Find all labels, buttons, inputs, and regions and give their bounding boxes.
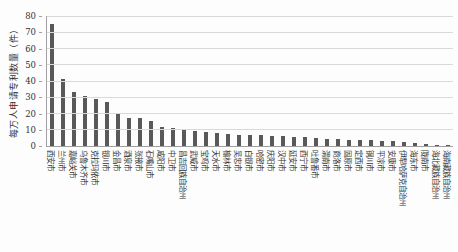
gridline-50 [47,64,453,65]
bar [72,92,76,146]
x-axis-label: 乌鲁木齐市 [79,150,87,185]
bar [314,138,318,146]
x-axis-label: 吴忠市 [233,150,241,171]
x-axis-label: 海北藏族自治州 [431,150,439,199]
y-tick-label-30: 30 [6,93,36,101]
x-axis-label: 陇南市 [420,150,428,171]
x-axis-label: 汉中市 [277,150,285,171]
bar [303,137,307,146]
x-axis-label: 白银市 [244,150,252,171]
bar [259,135,263,146]
y-tick-label-70: 70 [6,28,36,36]
x-axis-label: 酒泉市 [123,150,131,171]
x-axis-label: 定西市 [354,150,362,171]
gridline-80 [47,16,453,17]
bar [270,136,274,146]
bar [413,143,417,146]
x-axis-label: 安康市 [387,150,395,171]
x-axis-label: 海南藏族自治州 [442,150,450,199]
x-axis-label: 西宁市 [299,150,307,171]
bar [424,144,428,146]
x-axis-label: 铜川市 [365,150,373,171]
x-axis-label: 渭南市 [321,150,329,171]
bar [215,133,219,146]
bar [358,140,362,146]
x-axis-label: 武威市 [189,150,197,171]
y-tick-label-10: 10 [6,126,36,134]
x-axis-label: 西安市 [46,150,54,171]
y-tick-mark [39,49,42,50]
y-tick-label-40: 40 [6,77,36,85]
x-axis-label: 宝鸡市 [200,150,208,171]
x-axis-label: 石嘴山市 [145,150,153,178]
x-axis-label: 海东市 [409,150,417,171]
bar [105,102,109,146]
y-tick-label-60: 60 [6,45,36,53]
y-tick-mark [39,16,42,17]
x-axis-label: 哈密市 [255,150,263,171]
bar [193,131,197,146]
bar [248,135,252,146]
y-tick-mark [39,97,42,98]
bar [182,129,186,146]
bar [446,145,450,146]
gridline-70 [47,32,453,33]
y-tick-label-20: 20 [6,110,36,118]
bar [325,139,329,146]
bar [402,142,406,146]
y-tick-label-80: 80 [6,12,36,20]
bar [281,136,285,146]
y-tick-label-50: 50 [6,61,36,69]
y-tick-mark [39,65,42,66]
bar [204,132,208,146]
x-axis-label: 榆林市 [222,150,230,171]
y-tick-label-0: 0 [6,142,36,150]
bar [380,141,384,146]
y-axis: 01020304050607080 [0,0,46,252]
bar [83,96,87,146]
plot-area [46,16,453,147]
x-axis-label: 张掖市 [134,150,142,171]
x-axis-label: 庆阳市 [266,150,274,171]
bar [369,140,373,146]
x-axis-label: 伊犁哈萨克自治州 [398,150,406,206]
x-axis-label: 咸阳市 [156,150,164,171]
x-axis-label: 平凉市 [376,150,384,171]
bar [127,118,131,146]
bar [347,140,351,147]
patent-bar-chart: 每万人申请专利数量（件） 01020304050607080 西安市兰州市嘉峪关… [0,0,458,252]
x-axis-labels: 西安市兰州市嘉峪关市乌鲁木齐市克拉玛依市银川市金昌市酒泉市张掖市石嘴山市咸阳市中… [46,150,452,250]
bar [292,137,296,146]
gridline-40 [47,81,453,82]
x-axis-label: 天水市 [211,150,219,171]
bar [138,118,142,146]
bar [391,141,395,146]
gridline-10 [47,129,453,130]
x-axis-label: 中卫市 [167,150,175,171]
x-axis-label: 银川市 [101,150,109,171]
gridline-20 [47,113,453,114]
x-axis-label: 吐鲁番市 [310,150,318,178]
x-axis-label: 嘉峪关市 [68,150,76,178]
y-tick-mark [39,146,42,147]
bar [237,135,241,146]
y-tick-mark [39,81,42,82]
bar [435,145,439,146]
x-axis-label: 克拉玛依市 [90,150,98,185]
x-axis-label: 昌吉回族自治州 [178,150,186,199]
x-axis-label: 延安市 [288,150,296,171]
x-axis-label: 兰州市 [57,150,65,171]
x-axis-label: 固原市 [343,150,351,171]
x-axis-label: 商洛市 [332,150,340,171]
y-tick-mark [39,114,42,115]
bar [149,121,153,146]
gridline-60 [47,48,453,49]
bar [336,139,340,146]
bar [171,128,175,146]
bar [226,134,230,146]
gridline-30 [47,97,453,98]
y-tick-mark [39,130,42,131]
bar [50,24,54,146]
y-tick-mark [39,32,42,33]
x-axis-label: 金昌市 [112,150,120,171]
